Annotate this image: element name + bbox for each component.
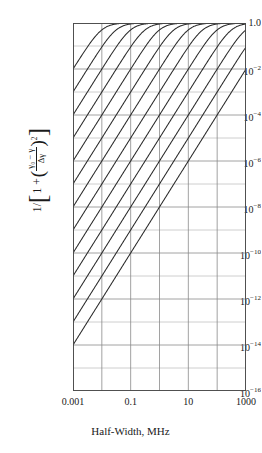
- y-axis-tick-mantissa: 1.0: [249, 17, 262, 28]
- y-axis-label-denominator: Δγ: [36, 147, 47, 171]
- y-axis-tick-exponent: −8: [254, 202, 261, 210]
- y-axis-label: 1/[1 +(γ₀ − γΔγ)2]: [17, 85, 57, 255]
- x-axis-tick-label: 0.001: [45, 397, 101, 407]
- y-axis-tick-exponent: −6: [254, 156, 261, 164]
- y-axis-label-lead: 1/: [31, 203, 43, 212]
- x-axis-label: Half-Width, MHz: [0, 425, 261, 437]
- y-axis-tick-exponent: −2: [254, 64, 261, 72]
- y-axis-tick-exponent: −16: [250, 386, 261, 394]
- plot-area: [73, 23, 246, 391]
- y-axis-tick-exponent: −14: [250, 340, 261, 348]
- y-axis-label-numerator: γ₀ − γ: [26, 147, 36, 171]
- y-axis-label-exponent: 2: [30, 136, 39, 140]
- plot-canvas: [73, 23, 246, 391]
- x-axis-tick-label: 10: [160, 397, 216, 407]
- y-axis-tick-exponent: −10: [250, 248, 261, 256]
- x-axis-tick-label: 0.1: [103, 397, 159, 407]
- y-axis-tick-exponent: −4: [254, 110, 261, 118]
- y-axis-label-fraction: γ₀ − γΔγ: [26, 147, 46, 171]
- y-axis-label-one-plus: 1 +: [31, 177, 43, 194]
- lorentzian-lineshape-figure: 1/[1 +(γ₀ − γΔγ)2] 1.010−210−410−610−810…: [0, 0, 261, 453]
- x-axis-tick-label: 1000: [218, 397, 261, 407]
- y-axis-tick-exponent: −12: [250, 294, 261, 302]
